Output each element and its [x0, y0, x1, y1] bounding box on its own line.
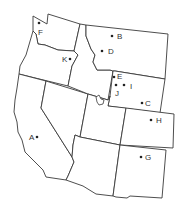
state-arizona [66, 135, 120, 196]
point-e-marker [113, 76, 116, 79]
point-d-marker [101, 50, 104, 53]
point-j-marker [115, 84, 118, 87]
point-a-label: A [29, 133, 35, 142]
point-j-label: J [115, 89, 119, 98]
point-h-label: H [156, 116, 162, 125]
point-f-marker [38, 22, 41, 25]
western-us-map: ABCDEFGHIJK [0, 0, 183, 209]
point-a-marker [36, 136, 39, 139]
point-e-label: E [117, 72, 122, 81]
point-k-label: K [62, 55, 68, 64]
point-b-label: B [117, 32, 122, 41]
point-g-marker [140, 156, 143, 159]
point-h-marker [150, 119, 153, 122]
point-k-marker [69, 58, 72, 61]
point-g-label: G [145, 153, 151, 162]
point-f-label: F [38, 28, 43, 37]
point-b-marker [111, 35, 114, 38]
point-i-label: I [130, 82, 132, 91]
state-new-mexico [113, 145, 166, 198]
point-c-label: C [145, 99, 151, 108]
point-d-label: D [108, 47, 114, 56]
point-i-marker [123, 84, 126, 87]
state-colorado [120, 108, 174, 148]
point-c-marker [141, 102, 144, 105]
